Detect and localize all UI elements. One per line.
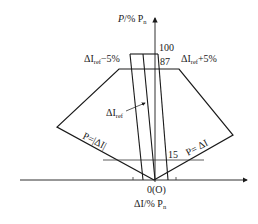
band-left-line <box>130 54 143 180</box>
band-label-minus5: ΔIref−5% <box>84 53 120 65</box>
right-edge-label: P= ΔI <box>184 137 210 158</box>
y-axis-label: P/% Pn <box>117 13 147 25</box>
diagram-canvas: P/% Pn 100 87 15 ΔIref−5% ΔIref+5% ΔIref… <box>0 0 258 224</box>
band-label-plus5: ΔIref+5% <box>181 53 217 65</box>
tick-label-100: 100 <box>159 42 174 53</box>
band-right-line <box>158 54 168 180</box>
origin-label: 0(O) <box>147 184 166 196</box>
operating-envelope <box>57 69 233 180</box>
tick-label-87: 87 <box>160 56 170 67</box>
band-label-ref: ΔIref <box>106 107 124 119</box>
x-axis-label: ΔI/% Pn <box>134 198 167 210</box>
band-center-line <box>143 54 155 180</box>
tick-label-15: 15 <box>168 149 178 160</box>
